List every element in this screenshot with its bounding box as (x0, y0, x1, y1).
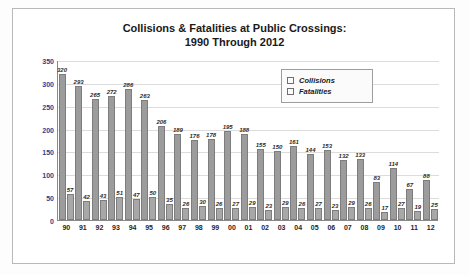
bar-value-label: 161 (288, 139, 299, 145)
bar-value-label: 19 (412, 204, 423, 210)
bar-fatalities-02 (265, 210, 272, 221)
bar-value-label: 88 (421, 173, 432, 179)
x-axis-tick-label: 95 (141, 224, 158, 231)
bar-fatalities-10 (398, 208, 405, 220)
bar-fatalities-90 (67, 194, 74, 220)
bar-value-label: 30 (197, 199, 208, 205)
bar-value-label: 67 (404, 182, 415, 188)
x-axis-tick-label: 97 (174, 224, 191, 231)
bar-value-label: 26 (214, 201, 225, 207)
x-axis-tick-label: 03 (273, 224, 290, 231)
bar-collisions-06 (324, 150, 331, 220)
bar-value-label: 26 (296, 201, 307, 207)
bar-value-label: 26 (363, 201, 374, 207)
x-axis-tick-label: 96 (157, 224, 174, 231)
bar-collisions-10 (390, 168, 397, 220)
bar-value-label: 47 (131, 192, 142, 198)
bar-value-label: 178 (206, 132, 217, 138)
bar-value-label: 133 (355, 152, 366, 158)
chart-title: Collisions & Fatalities at Public Crossi… (13, 21, 456, 49)
grid-line (58, 84, 439, 85)
bar-collisions-02 (257, 149, 264, 220)
x-axis-tick-label: 90 (58, 224, 75, 231)
bar-value-label: 150 (272, 144, 283, 150)
x-axis-tick-label: 98 (191, 224, 208, 231)
y-axis-tick-label: 250 (42, 103, 54, 110)
bar-fatalities-96 (166, 204, 173, 220)
bar-value-label: 114 (388, 161, 399, 167)
bar-value-label: 29 (247, 200, 258, 206)
bar-collisions-94 (125, 89, 132, 220)
bar-fatalities-08 (365, 208, 372, 220)
bar-value-label: 29 (280, 200, 291, 206)
bar-collisions-07 (340, 160, 347, 220)
chart-container: Collisions & Fatalities at Public Crossi… (12, 8, 455, 264)
bar-value-label: 189 (172, 127, 183, 133)
y-axis-tick-label: 50 (46, 195, 54, 202)
bar-fatalities-05 (315, 208, 322, 220)
bar-value-label: 51 (114, 190, 125, 196)
bar-fatalities-01 (249, 207, 256, 220)
bar-collisions-99 (208, 139, 215, 220)
chart-title-line-1: Collisions & Fatalities at Public Crossi… (13, 21, 456, 35)
x-axis-tick-label: 09 (373, 224, 390, 231)
bar-value-label: 17 (379, 205, 390, 211)
bar-value-label: 293 (73, 79, 84, 85)
bar-collisions-03 (274, 151, 281, 220)
bar-value-label: 26 (180, 201, 191, 207)
bar-value-label: 195 (222, 124, 233, 130)
x-axis-tick-label: 06 (323, 224, 340, 231)
bar-value-label: 286 (123, 82, 134, 88)
bar-value-label: 57 (65, 187, 76, 193)
bar-collisions-93 (108, 96, 115, 220)
bar-collisions-04 (290, 146, 297, 220)
x-axis-tick-label: 91 (75, 224, 92, 231)
bar-value-label: 25 (429, 202, 440, 208)
y-axis-tick-label: 150 (42, 149, 54, 156)
bar-fatalities-12 (431, 209, 438, 220)
y-axis-tick-label: 350 (42, 58, 54, 65)
bar-value-label: 206 (156, 119, 167, 125)
grid-line (58, 221, 439, 222)
bar-value-label: 265 (90, 92, 101, 98)
bar-value-label: 144 (305, 147, 316, 153)
bar-collisions-95 (141, 100, 148, 220)
bar-collisions-08 (357, 159, 364, 220)
bar-collisions-98 (191, 140, 198, 220)
bar-value-label: 153 (322, 143, 333, 149)
legend-item-collisions: Collisions (287, 76, 367, 85)
bar-value-label: 27 (396, 201, 407, 207)
bar-fatalities-98 (199, 206, 206, 220)
bar-value-label: 188 (239, 127, 250, 133)
grid-line (58, 61, 439, 62)
bar-fatalities-92 (100, 200, 107, 220)
bar-value-label: 27 (313, 201, 324, 207)
x-axis-tick-label: 99 (207, 224, 224, 231)
y-axis-tick-label: 100 (42, 172, 54, 179)
bar-fatalities-04 (298, 208, 305, 220)
legend-label-collisions: Collisions (299, 76, 335, 85)
y-axis-tick-label: 300 (42, 80, 54, 87)
bar-value-label: 50 (147, 190, 158, 196)
bar-collisions-92 (92, 99, 99, 220)
bar-fatalities-09 (381, 212, 388, 220)
bar-fatalities-97 (182, 208, 189, 220)
bar-value-label: 83 (371, 175, 382, 181)
x-axis-tick-label: 94 (124, 224, 141, 231)
legend-swatch-collisions (287, 77, 294, 84)
bar-value-label: 263 (139, 93, 150, 99)
bar-collisions-09 (373, 182, 380, 220)
x-axis-tick-label: 07 (340, 224, 357, 231)
x-axis-tick-label: 92 (91, 224, 108, 231)
bar-value-label: 43 (98, 193, 109, 199)
bar-value-label: 176 (189, 133, 200, 139)
bar-collisions-05 (307, 154, 314, 220)
bar-collisions-96 (158, 126, 165, 220)
bar-fatalities-93 (116, 197, 123, 220)
bar-value-label: 42 (81, 194, 92, 200)
bar-fatalities-95 (149, 197, 156, 220)
bar-value-label: 320 (57, 67, 68, 73)
x-axis-tick-label: 11 (406, 224, 423, 231)
x-axis-tick-label: 01 (240, 224, 257, 231)
bar-fatalities-00 (232, 208, 239, 220)
